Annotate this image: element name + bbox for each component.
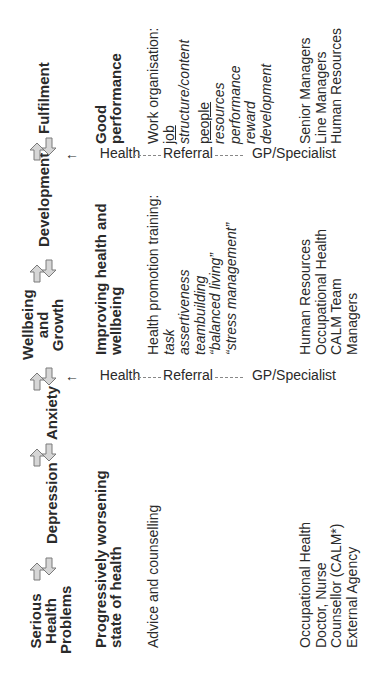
stage-line: Development (36, 153, 51, 247)
row-title-improving: Improving health and wellbeing (93, 203, 123, 355)
intervention-item: job (162, 28, 178, 144)
intervention-advice: Advice and counselling (146, 505, 162, 648)
providers-middle: Human Resources Occupational Health CALM… (298, 229, 360, 355)
label-text: GP/Specialist (252, 145, 336, 161)
row-title-line: performance (108, 53, 123, 144)
intervention-item: reward (243, 28, 259, 144)
stage-line: Anxiety (44, 386, 59, 440)
providers-left: Occupational Health Doctor, Nurse Counse… (298, 522, 360, 648)
divider-specialist-label: GP/Specialist (244, 145, 344, 165)
provider-line: Human Resources (298, 229, 314, 355)
intervention-heading: Work organisation: (146, 28, 162, 144)
provider-line: Doctor, Nurse (314, 522, 330, 648)
intervention-line: Advice and counselling (146, 505, 162, 648)
intervention-item: structure/content (177, 28, 193, 144)
label-text: Health (100, 367, 140, 383)
intervention-item: “stress management” (224, 195, 240, 355)
intervention-item: people (197, 28, 213, 144)
stage-line: Problems (58, 588, 73, 654)
row-title-line: Progressively worsening (93, 470, 108, 648)
intervention-item: “balanced living” (208, 195, 224, 355)
provider-line: Senior Managers (298, 28, 314, 144)
stage-fulfilment: Fulfilment (36, 62, 51, 134)
stage-development: Development (36, 153, 51, 247)
row-title-good-performance: Good performance (93, 53, 123, 144)
double-arrow-icon (28, 366, 58, 392)
rotated-diagram: Serious Health Problems Depression Anxie… (0, 0, 382, 692)
intervention-item: performance (228, 28, 244, 144)
double-arrow-icon (28, 136, 58, 162)
provider-line: Occupational Health (298, 522, 314, 648)
stage-line: and (35, 290, 50, 360)
label-text: Referral (163, 145, 213, 161)
stage-line: Depression (44, 462, 59, 544)
provider-line: CALM Team (329, 229, 345, 355)
double-arrow-icon (28, 258, 58, 284)
stage-anxiety: Anxiety (44, 386, 59, 440)
row-title-line: state of health (108, 470, 123, 648)
stage-depression: Depression (44, 462, 59, 544)
arrow-up-icon: ← (64, 369, 80, 383)
provider-line: Managers (345, 229, 361, 355)
label-text: GP/Specialist (252, 367, 336, 383)
row-title-line: wellbeing (108, 203, 123, 355)
arrow-up-icon: ← (64, 147, 80, 161)
row-title-worsening: Progressively worsening state of health (93, 470, 123, 648)
intervention-item: task (162, 195, 178, 355)
provider-line: Counsellor (CALM*) (329, 522, 345, 648)
provider-line: Occupational Health (314, 229, 330, 355)
row-title-line: Good (93, 53, 108, 144)
double-arrow-icon (28, 556, 58, 582)
intervention-heading: Health promotion training: (146, 195, 162, 355)
stage-line: Growth (50, 290, 65, 360)
stage-line: Health (43, 588, 58, 654)
divider-development-fulfilment: ← Health Referral GP/Specialist (60, 140, 370, 170)
stage-line: Wellbeing (20, 290, 35, 360)
stage-wellbeing-and-growth: Wellbeing and Growth (20, 290, 65, 360)
intervention-item: assertiveness (177, 195, 193, 355)
label-text: Health (100, 145, 140, 161)
label-text: Referral (163, 367, 213, 383)
stage-serious-health-problems: Serious Health Problems (28, 588, 73, 654)
provider-line: External Agency (345, 522, 361, 648)
arrow-glyph: ← (65, 368, 79, 384)
intervention-item: development (259, 28, 275, 144)
intervention-item: teambuilding (193, 195, 209, 355)
provider-line: Human Resources (329, 28, 345, 144)
row-title-line: Improving health and (93, 203, 108, 355)
intervention-work-organisation: Work organisation: job structure/content… (146, 28, 274, 144)
intervention-item: resources (212, 28, 228, 144)
double-arrow-icon (28, 442, 58, 468)
divider-anxiety-wellbeing: ← Health Referral GP/Specialist (60, 362, 370, 392)
intervention-health-promotion: Health promotion training: task assertiv… (146, 195, 239, 355)
stage-line: Serious (28, 588, 43, 654)
providers-right: Senior Managers Line Managers Human Reso… (298, 28, 345, 144)
divider-specialist-label: GP/Specialist (244, 367, 344, 387)
stage-line: Fulfilment (36, 62, 51, 134)
provider-line: Line Managers (314, 28, 330, 144)
dashed-line (215, 155, 243, 156)
arrow-glyph: ← (65, 146, 79, 162)
dashed-line (215, 377, 243, 378)
